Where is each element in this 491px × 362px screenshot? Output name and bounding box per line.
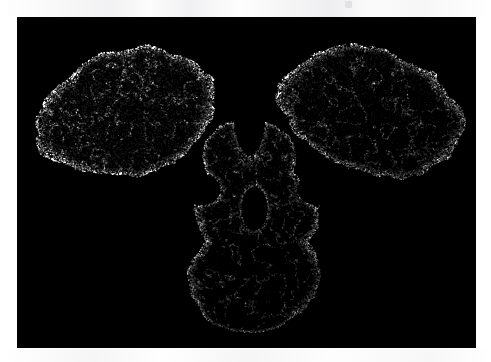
molecule-dot-surface-canvas	[17, 17, 476, 348]
top-margin-artifact	[0, 0, 491, 17]
page-root: Dot-surface molecular rendering of a Y-s…	[0, 0, 491, 362]
bottom-margin-artifact	[0, 349, 491, 362]
figure-caption	[0, 0, 1, 1]
molecular-surface-figure	[17, 17, 476, 348]
figure-description: Surface-dot cloud tracing the solvent-ac…	[0, 0, 1, 1]
figure-alt-text: Dot-surface molecular rendering of a Y-s…	[0, 0, 1, 1]
